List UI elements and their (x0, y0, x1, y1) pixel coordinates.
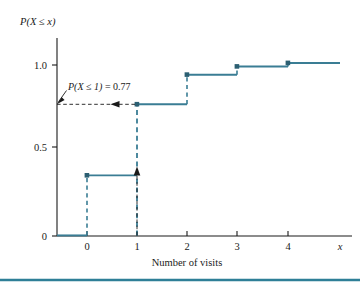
probability-annotation-label: P(X ≤ 1) = 0.77 (67, 81, 131, 93)
x-axis-name: x (337, 241, 343, 252)
marker-x3 (235, 64, 240, 69)
marker-x2 (185, 72, 190, 77)
x-axis-title: Number of visits (152, 257, 223, 268)
x-tick-label-3: 3 (234, 241, 239, 252)
y-tick-label-0.5: 0.5 (34, 142, 47, 153)
vertical-guide-arrowhead (134, 167, 141, 176)
x-tick-label-2: 2 (184, 241, 189, 252)
step-function-chart: 1.0 0.5 0 0 1 2 3 4 P(X ≤ x) x Number of… (0, 0, 360, 285)
y-tick-label-1.0: 1.0 (34, 60, 47, 71)
marker-x4 (286, 61, 291, 66)
horizontal-guide-arrowhead (111, 101, 120, 108)
x-tick-label-4: 4 (285, 241, 291, 252)
x-tick-label-0: 0 (84, 241, 89, 252)
marker-x0 (85, 173, 90, 178)
y-tick-label-0: 0 (42, 231, 47, 242)
cdf-figure: 1.0 0.5 0 0 1 2 3 4 P(X ≤ x) x Number of… (0, 0, 360, 285)
axes (57, 38, 352, 236)
y-axis-label: P(X ≤ x) (19, 16, 56, 28)
x-axis-ticks (87, 231, 288, 236)
marker-x1 (135, 102, 140, 107)
annotation-expression: P(X ≤ 1) (67, 81, 103, 93)
x-tick-label-1: 1 (134, 241, 139, 252)
annotation-value: = 0.77 (102, 81, 130, 92)
annotation-guides (57, 91, 141, 236)
y-axis-ticks (52, 65, 57, 236)
